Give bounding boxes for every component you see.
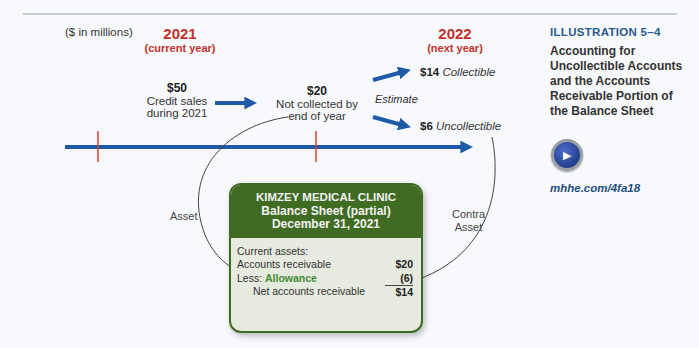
row-label: Net accounts receivable <box>237 285 365 300</box>
row-label: Accounts receivable <box>237 258 331 272</box>
collectible-arrow-icon <box>373 71 406 80</box>
row-value: $14 <box>385 285 413 300</box>
statement-date: December 31, 2021 <box>235 218 417 232</box>
balance-sheet-header: KIMZEY MEDICAL CLINIC Balance Sheet (par… <box>231 185 421 238</box>
not-collected-line2: end of year <box>262 110 372 123</box>
credit-sales-label: $50 Credit sales during 2021 <box>132 82 222 120</box>
contra-label-line1: Contra <box>452 208 485 221</box>
credit-sales-line2: during 2021 <box>132 107 222 120</box>
row-label: Less: Allowance <box>237 272 317 286</box>
not-collected-line1: Not collected by <box>262 98 372 111</box>
allowance-label: Allowance <box>265 272 317 284</box>
video-icon[interactable]: ▶ <box>551 139 583 171</box>
balance-sheet-body: Current assets: Accounts receivable $20 … <box>231 238 421 300</box>
illustration-title: Accounting for Uncollectible Accounts an… <box>550 44 690 119</box>
row-label-prefix: Less: <box>237 272 265 284</box>
company-name: KIMZEY MEDICAL CLINIC <box>235 191 417 205</box>
table-row: Less: Allowance (6) <box>237 272 413 286</box>
collectible-label: $14 Collectible <box>420 66 495 78</box>
resource-link[interactable]: mhhe.com/4fa18 <box>550 182 640 194</box>
table-row: Net accounts receivable $14 <box>237 285 413 300</box>
uncollectible-label: $6 Uncollectible <box>420 120 501 132</box>
uncollectible-text: Uncollectible <box>436 120 501 132</box>
statement-title: Balance Sheet (partial) <box>235 205 417 219</box>
collectible-amount: $14 <box>420 66 439 78</box>
contra-asset-label: Contra Asset <box>452 208 485 234</box>
collectible-text: Collectible <box>442 66 495 78</box>
asset-label: Asset <box>170 210 198 222</box>
not-collected-label: $20 Not collected by end of year <box>262 85 372 123</box>
uncollectible-arrow-icon <box>373 117 406 126</box>
balance-sheet-box: KIMZEY MEDICAL CLINIC Balance Sheet (par… <box>229 183 423 333</box>
illustration-number: ILLUSTRATION 5–4 <box>550 26 661 38</box>
allowance-value: (6) <box>385 272 413 286</box>
table-row: Accounts receivable $20 <box>237 258 413 272</box>
row-value: $20 <box>385 258 413 272</box>
contra-label-line2: Asset <box>452 221 485 234</box>
estimate-label: Estimate <box>375 93 418 105</box>
uncollectible-amount: $6 <box>420 120 433 132</box>
credit-sales-amount: $50 <box>132 82 222 95</box>
credit-sales-line1: Credit sales <box>132 95 222 108</box>
not-collected-amount: $20 <box>262 85 372 98</box>
section-label: Current assets: <box>237 245 413 259</box>
